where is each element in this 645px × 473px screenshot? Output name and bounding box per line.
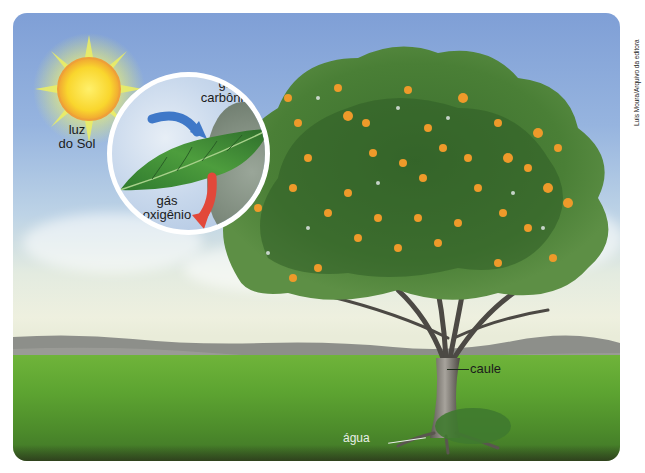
stem-label: caule (470, 362, 501, 376)
o2-arrow-icon (202, 177, 212, 217)
stem-callout-line (447, 369, 469, 370)
illustration-frame: luz do Sol (13, 13, 620, 461)
oxygen-label: gás oxigênio (132, 194, 202, 222)
water-label: água (343, 431, 370, 445)
sunlight-label-line1: luz (47, 123, 107, 137)
o2-label-line2: oxigênio (132, 208, 202, 222)
carbon-dioxide-label: gás carbônico (194, 77, 264, 105)
sunlight-label-line2: do Sol (47, 137, 107, 151)
co2-arrow-icon (152, 116, 197, 132)
o2-label-line1: gás (132, 194, 202, 208)
credit-text: Luis Moura/Arquivo da editora (633, 39, 640, 126)
image-credit: Luis Moura/Arquivo da editora (622, 18, 636, 128)
co2-label-line1: gás (194, 77, 264, 91)
leaf-inset: gás carbônico gás oxigênio (107, 72, 270, 235)
co2-label-line2: carbônico (194, 91, 264, 105)
sunlight-label: luz do Sol (47, 123, 107, 151)
